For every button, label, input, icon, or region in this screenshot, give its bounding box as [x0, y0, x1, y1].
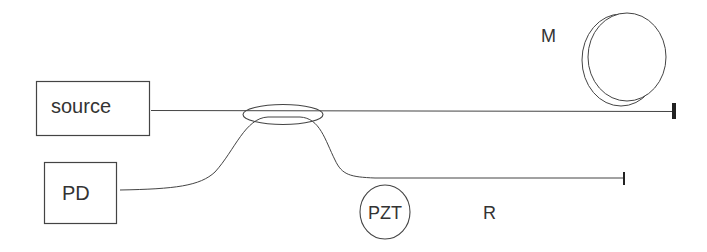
reference-end-mirror — [623, 172, 625, 185]
fiber-coupler — [243, 105, 323, 125]
measurement-arm-label: M — [541, 26, 556, 46]
reference-fiber — [120, 117, 623, 190]
source-label: source — [51, 95, 111, 117]
pzt-modulator: PZT — [360, 185, 410, 239]
measurement-fiber — [151, 111, 675, 112]
pzt-label: PZT — [368, 203, 402, 223]
reference-arm-label: R — [483, 203, 496, 223]
fiber-coil — [582, 13, 666, 106]
source-box: source — [37, 82, 150, 136]
photodetector-box: PD — [45, 163, 117, 224]
photodetector-label: PD — [62, 182, 90, 204]
measurement-end-mirror — [672, 103, 676, 119]
diagram-canvas: source PD M PZT R — [0, 0, 707, 252]
